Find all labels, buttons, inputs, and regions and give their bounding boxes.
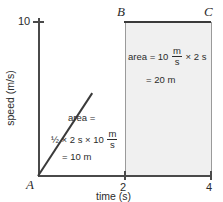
x-tick-2 bbox=[124, 171, 126, 180]
triangle-area-line3: = 10 m bbox=[62, 151, 91, 163]
x-tick-label-4: 4 bbox=[206, 181, 212, 193]
rectangle-area-line2: = 20 m bbox=[146, 74, 175, 86]
rectangle-shading bbox=[125, 22, 211, 175]
point-label-c: C bbox=[204, 4, 213, 20]
triangle-area-fraction: ms bbox=[107, 129, 117, 149]
y-tick-10 bbox=[33, 21, 44, 23]
rectangle-area-prefix: area = 10 bbox=[128, 51, 171, 62]
rectangle-area-line1: area = 10 ms × 2 s bbox=[128, 47, 206, 67]
y-axis-title: speed (m/s) bbox=[4, 58, 16, 138]
speed-time-graph-figure: 10 2 4 time (s) speed (m/s) A B C area =… bbox=[0, 0, 223, 202]
triangle-area-line2: ½ × 2 s × 10 ms bbox=[51, 130, 118, 150]
y-tick-label-10: 10 bbox=[18, 15, 30, 27]
triangle-area-fraction-denominator: s bbox=[107, 140, 117, 150]
triangle-area-prefix: ½ × 2 s × 10 bbox=[51, 134, 106, 145]
x-tick-4 bbox=[210, 171, 212, 180]
point-label-a: A bbox=[26, 177, 34, 193]
edge-line-at-t4 bbox=[211, 22, 212, 175]
triangle-area-line1: area = bbox=[68, 112, 95, 124]
drop-line-at-t2 bbox=[125, 22, 126, 175]
rectangle-area-fraction: ms bbox=[172, 46, 182, 66]
rectangle-area-fraction-numerator: m bbox=[172, 46, 182, 57]
triangle-area-fraction-numerator: m bbox=[107, 129, 117, 140]
line-segment-bc bbox=[124, 21, 211, 23]
x-axis-title: time (s) bbox=[96, 190, 131, 202]
rectangle-area-fraction-denominator: s bbox=[172, 57, 182, 67]
y-axis-line bbox=[38, 18, 40, 176]
point-label-b: B bbox=[117, 4, 125, 20]
rectangle-area-suffix: × 2 s bbox=[183, 51, 207, 62]
